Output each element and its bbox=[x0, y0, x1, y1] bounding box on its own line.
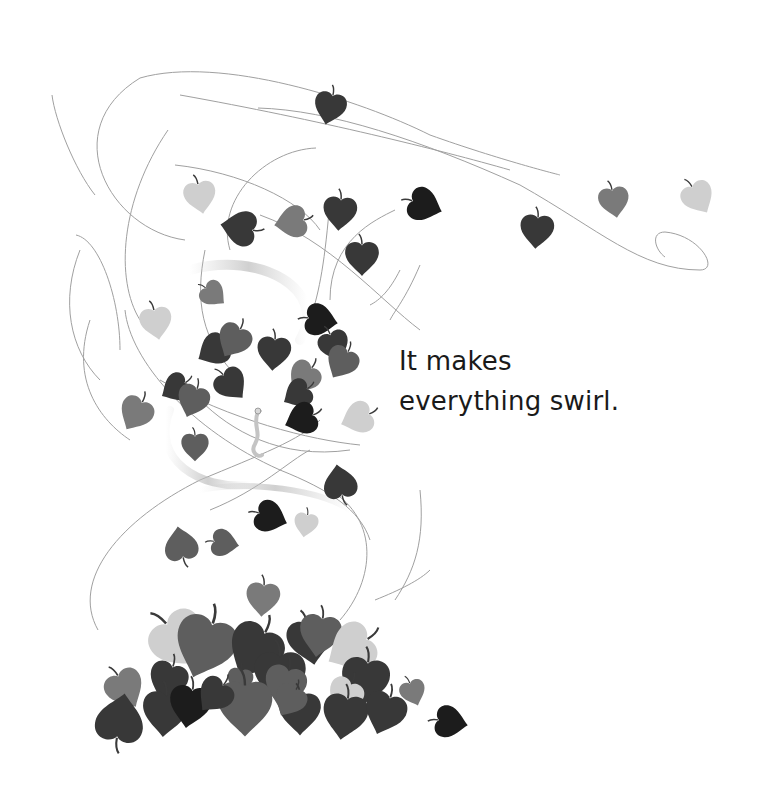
page-caption: It makes everything swirl. bbox=[399, 341, 619, 421]
leaf-icon bbox=[161, 523, 201, 570]
leaf-pile bbox=[91, 591, 415, 757]
leaf-icon bbox=[217, 207, 266, 249]
leaf-icon bbox=[244, 494, 293, 538]
leaf-icon bbox=[322, 188, 359, 233]
leaf-icon bbox=[112, 385, 162, 438]
leaf-icon bbox=[245, 574, 282, 619]
leaf-icon bbox=[271, 202, 316, 241]
leaf-icon bbox=[191, 273, 232, 313]
caption-line-1: It makes bbox=[399, 341, 619, 381]
leaf-icon bbox=[256, 328, 293, 373]
leaf-icon bbox=[292, 506, 321, 540]
worm-icon bbox=[253, 408, 262, 456]
leaf-icon bbox=[91, 689, 149, 756]
swirl-illustration bbox=[0, 0, 780, 785]
leaf-icon bbox=[595, 178, 632, 221]
leaf-icon bbox=[426, 702, 471, 741]
leaf-icon bbox=[397, 181, 448, 227]
leaf-icon bbox=[136, 298, 175, 343]
leaf-icon bbox=[336, 395, 385, 439]
caption-line-2: everything swirl. bbox=[399, 381, 619, 421]
leaf-icon bbox=[205, 357, 255, 408]
leaf-icon bbox=[181, 427, 208, 461]
leaf-icon bbox=[180, 172, 219, 217]
leaf-icon bbox=[203, 526, 241, 559]
leaf-icon bbox=[519, 206, 556, 251]
leaf-icon bbox=[280, 396, 329, 440]
leaf-icon bbox=[673, 170, 721, 221]
